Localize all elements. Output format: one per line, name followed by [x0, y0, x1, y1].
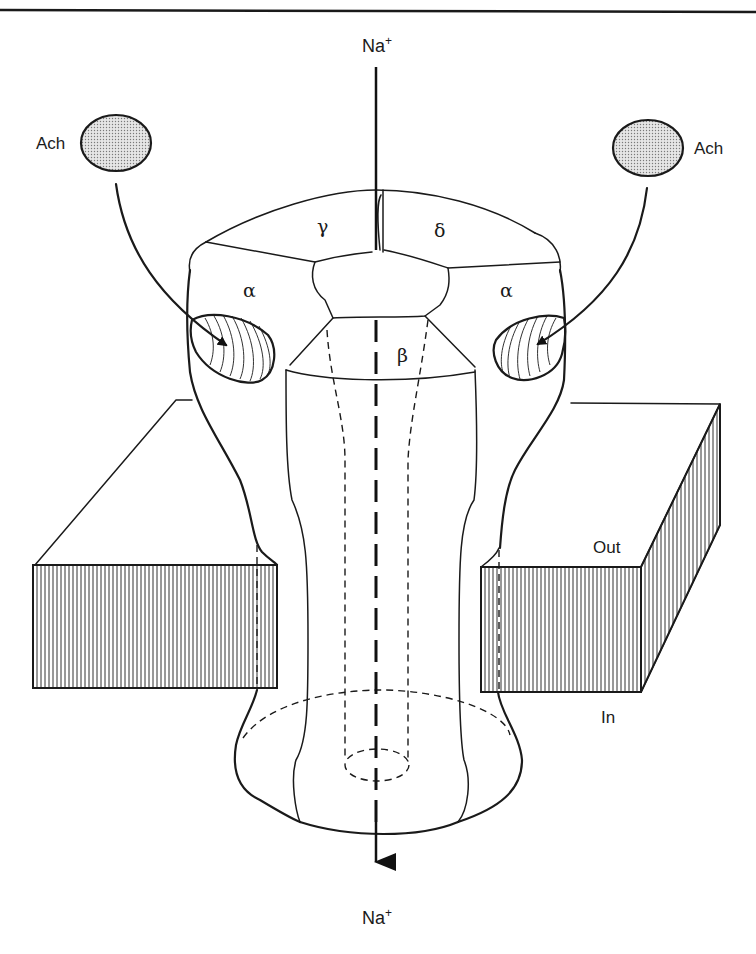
ach-molecule-left	[81, 115, 151, 171]
membrane-block-left	[33, 400, 277, 688]
subunit-delta-label: δ	[434, 219, 445, 241]
membrane-out-label: Out	[593, 538, 621, 557]
ligand-label-right: Ach	[694, 139, 723, 158]
ach-molecule-right	[613, 120, 683, 176]
binding-arrow-left	[116, 184, 226, 345]
top-rule	[0, 10, 756, 12]
binding-site-right	[494, 316, 566, 380]
ligand-label-left: Ach	[36, 134, 65, 153]
ion-label-top: Na+	[362, 34, 392, 56]
binding-site-left	[191, 315, 274, 383]
ion-label-bottom: Na+	[362, 906, 392, 928]
membrane-in-label: In	[601, 708, 615, 727]
acetylcholine-receptor-diagram: Na+ Na+ Ach Ach Out In γ δ α α β	[0, 0, 756, 954]
subunit-beta-label: β	[397, 344, 408, 366]
subunit-gamma-label: γ	[317, 215, 328, 237]
subunit-alpha-right-label: α	[500, 279, 513, 301]
ligand-right	[538, 120, 683, 344]
subunit-alpha-left-label: α	[243, 279, 256, 301]
ligand-left	[81, 115, 226, 345]
